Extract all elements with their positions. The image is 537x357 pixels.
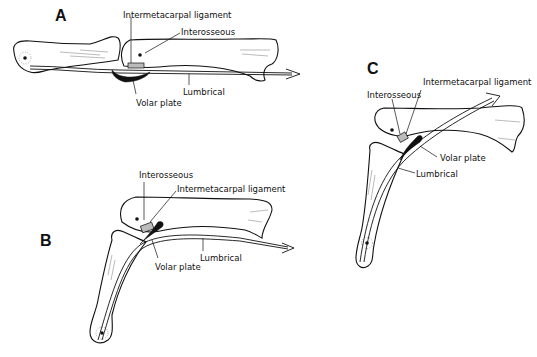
panel-b-label-lumbrical: Lumbrical	[200, 253, 242, 263]
panel-a-label-intermetacarpal-ligament: Intermetacarpal ligament	[123, 10, 232, 20]
panel-b-label-interosseous: Interosseous	[139, 170, 194, 180]
panel-c-label-intermetacarpal-ligament: Intermetacarpal ligament	[423, 77, 532, 87]
panel-c-label-volar-plate: Volar plate	[440, 153, 486, 163]
panel-a-joint-dot	[23, 56, 27, 60]
panel-c-label-interosseous: Interosseous	[367, 90, 422, 100]
panel-c-label-lumbrical: Lumbrical	[416, 169, 458, 179]
panel-a: A Intermetacarpal ligament Interosseous …	[14, 7, 300, 108]
panel-a-volar-plate-shape	[112, 70, 150, 82]
panel-b-label-intermetacarpal-ligament: Intermetacarpal ligament	[177, 184, 286, 194]
panel-c: C Interosseous Intermetacarpal ligament …	[356, 60, 532, 268]
panel-c-leader-lumbrical	[398, 168, 415, 173]
panel-a-arrow-head	[286, 69, 300, 79]
panel-b: B Interosseous Intermetacarpal ligament …	[40, 170, 294, 343]
panel-c-leader-volar-plate	[420, 146, 437, 157]
panel-c-metacarpal	[375, 106, 524, 152]
panel-b-letter: B	[40, 232, 52, 249]
panel-a-letter: A	[55, 7, 67, 24]
panel-c-letter: C	[367, 60, 379, 77]
panel-a-leader-volar-plate	[133, 80, 136, 94]
panel-a-metacarpal-dot	[138, 53, 142, 57]
panel-a-label-volar-plate: Volar plate	[136, 98, 182, 108]
panel-a-intermetacarpal-ligament-block	[128, 63, 144, 68]
panel-b-label-volar-plate: Volar plate	[155, 262, 201, 272]
panel-b-metacarpal-dot	[135, 217, 139, 221]
panel-c-metacarpal-dot	[390, 128, 394, 132]
anatomy-diagram: A Intermetacarpal ligament Interosseous …	[0, 0, 537, 357]
panel-a-label-interosseous: Interosseous	[181, 27, 236, 37]
panel-a-label-lumbrical: Lumbrical	[183, 87, 225, 97]
